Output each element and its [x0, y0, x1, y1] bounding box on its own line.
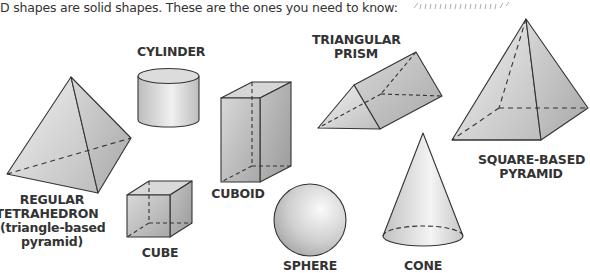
label-cube: CUBE [140, 246, 180, 260]
cube-shape [127, 181, 192, 237]
label-line: (triangle-based [0, 221, 104, 235]
label-line: REGULAR [0, 193, 104, 207]
square-pyramid-shape [452, 19, 588, 140]
label-cylinder: CYLINDER [137, 45, 203, 59]
label-tetrahedron: REGULAR TETRAHEDRON (triangle-based pyra… [0, 193, 104, 249]
tetrahedron-shape [7, 77, 131, 193]
label-line: SQUARE-BASED [478, 153, 584, 167]
label-line: PYRAMID [478, 167, 584, 181]
sphere-shape [274, 184, 346, 256]
label-line: TETRAHEDRON [0, 207, 104, 221]
label-cuboid: CUBOID [208, 187, 268, 201]
triangular-prism-shape [318, 52, 442, 129]
cylinder-shape [138, 69, 199, 128]
label-cone: CONE [398, 259, 448, 273]
label-line: PRISM [312, 47, 400, 61]
cuboid-shape [221, 82, 291, 182]
decorative-hatch [414, 2, 509, 9]
label-sphere: SPHERE [280, 259, 340, 273]
cone-shape [383, 133, 463, 246]
label-triangular-prism: TRIANGULAR PRISM [312, 33, 400, 61]
label-line: TRIANGULAR [312, 33, 400, 47]
label-line: pyramid) [0, 235, 104, 249]
label-square-based-pyramid: SQUARE-BASED PYRAMID [478, 153, 584, 181]
